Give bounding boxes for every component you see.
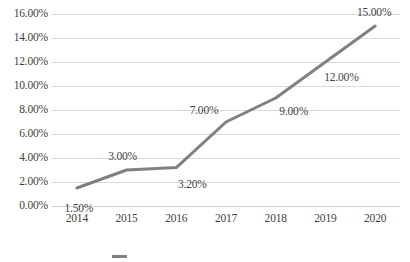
gridline bbox=[52, 206, 400, 207]
data-point-label: 3.00% bbox=[108, 150, 137, 162]
y-axis-tick-label: 16.00% bbox=[0, 8, 48, 20]
x-axis-tick-labels: 2014201520162017201820192020 bbox=[52, 212, 400, 232]
plot-area: 1.50%3.00%3.20%7.00%9.00%12.00%15.00% bbox=[52, 14, 400, 206]
y-axis-tick-labels: 0.00%2.00%4.00%6.00%8.00%10.00%12.00%14.… bbox=[0, 0, 48, 256]
data-point-label: 3.20% bbox=[178, 178, 207, 190]
chart-legend bbox=[112, 249, 134, 262]
y-axis-tick-label: 6.00% bbox=[0, 128, 48, 140]
y-axis-tick-label: 4.00% bbox=[0, 152, 48, 164]
data-point-label: 12.00% bbox=[324, 71, 358, 83]
x-axis-tick-label: 2014 bbox=[66, 212, 88, 225]
y-axis-tick-label: 8.00% bbox=[0, 104, 48, 116]
y-axis-tick-label: 0.00% bbox=[0, 200, 48, 212]
y-axis-tick-label: 12.00% bbox=[0, 56, 48, 68]
series-line bbox=[52, 14, 400, 206]
y-axis-tick-label: 14.00% bbox=[0, 32, 48, 44]
data-point-label: 7.00% bbox=[190, 104, 219, 116]
x-axis-tick-label: 2019 bbox=[314, 212, 336, 225]
data-point-label: 9.00% bbox=[279, 105, 308, 117]
legend-swatch-icon bbox=[112, 255, 127, 258]
x-axis-tick-label: 2015 bbox=[115, 212, 137, 225]
y-axis-tick-label: 2.00% bbox=[0, 176, 48, 188]
x-axis-tick-label: 2018 bbox=[265, 212, 287, 225]
series-polyline bbox=[77, 26, 375, 188]
data-point-label: 15.00% bbox=[357, 6, 391, 18]
x-axis-tick-label: 2020 bbox=[364, 212, 386, 225]
x-axis-tick-label: 2016 bbox=[165, 212, 187, 225]
x-axis-tick-label: 2017 bbox=[215, 212, 237, 225]
y-axis-tick-label: 10.00% bbox=[0, 80, 48, 92]
